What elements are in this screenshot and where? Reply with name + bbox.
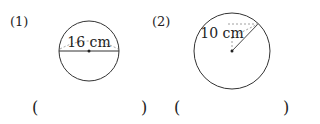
circle-2-radius-figure: 10 cm bbox=[194, 13, 270, 89]
answer-1-open-paren: ( bbox=[32, 98, 38, 117]
circle-1-diameter-figure: 16 cm bbox=[59, 21, 119, 81]
answer-1-close-paren: ) bbox=[141, 98, 147, 117]
answer-1-blank[interactable] bbox=[44, 98, 140, 118]
answer-2-open-paren: ( bbox=[174, 98, 180, 117]
answer-2-blank[interactable] bbox=[186, 98, 282, 118]
circle-2-radius-label: 10 cm bbox=[200, 25, 243, 41]
answer-2-close-paren: ) bbox=[283, 98, 289, 117]
circle-1-diameter-label: 16 cm bbox=[67, 34, 110, 50]
